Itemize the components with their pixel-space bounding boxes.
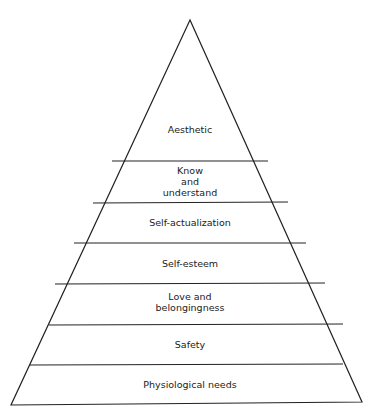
label-line: understand [0,187,369,198]
level-aesthetic: Aesthetic [0,124,369,135]
level-self-actualization: Self-actualization [0,217,369,228]
level-self-esteem: Self-esteem [0,258,369,269]
divider [30,364,343,365]
label-line: and [0,176,369,187]
divider [49,324,343,325]
label-line: belongingness [0,302,369,313]
level-safety: Safety [0,339,369,350]
divider [93,202,288,203]
level-love-and-belongingness: Love and belongingness [0,291,369,313]
level-physiological-needs: Physiological needs [0,379,369,390]
label-line: Know [0,165,369,176]
label-line: Love and [0,291,369,302]
divider [55,283,325,284]
pyramid-outline [0,0,369,420]
level-know-and-understand: Know and understand [0,165,369,198]
